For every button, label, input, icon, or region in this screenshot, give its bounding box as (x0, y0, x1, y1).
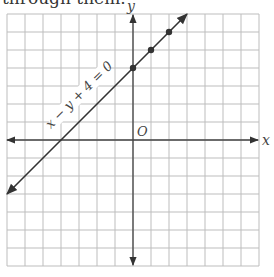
y-axis-label: y (126, 0, 136, 14)
data-point (166, 29, 172, 35)
x-axis-label: x (262, 132, 270, 148)
coordinate-plane: x y O x − y + 4 = 0 (0, 0, 274, 277)
data-point (148, 47, 154, 53)
data-point (130, 65, 136, 71)
origin-label: O (137, 124, 148, 139)
